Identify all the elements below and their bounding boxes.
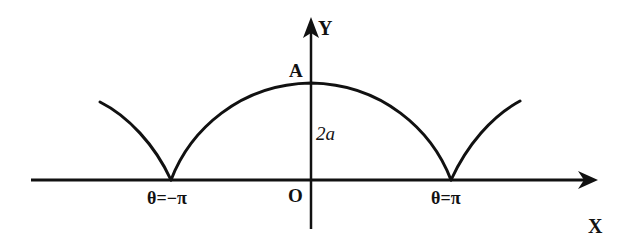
origin-label: O <box>288 185 303 206</box>
x-axis <box>31 171 598 189</box>
right-arch <box>451 101 520 180</box>
cycloid-diagram: Y X A 2a O θ=−π θ=π <box>0 0 633 238</box>
left-arch <box>100 102 171 180</box>
height-label: 2a <box>316 123 335 144</box>
left-cusp-label: θ=−π <box>147 188 187 208</box>
y-axis-label: Y <box>318 17 333 39</box>
x-axis-label: X <box>588 215 603 237</box>
peak-label: A <box>289 60 303 81</box>
right-cusp-label: θ=π <box>431 188 461 208</box>
